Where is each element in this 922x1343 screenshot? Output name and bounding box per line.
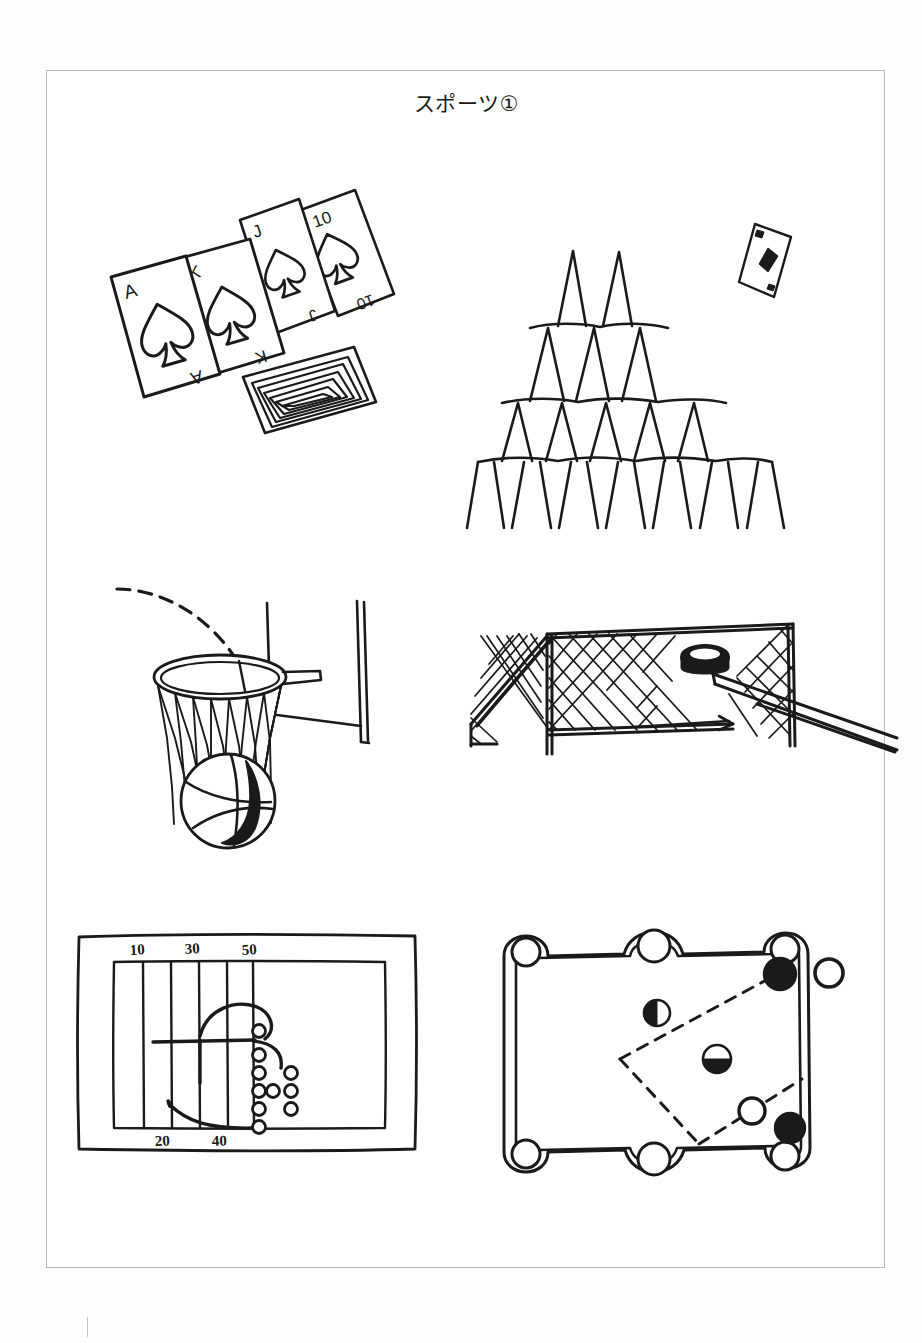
player-marker	[253, 1103, 266, 1116]
pocket-bottom-middle	[638, 1143, 670, 1175]
player-marker	[267, 1085, 280, 1098]
page-title: スポーツ①	[47, 87, 886, 117]
ball-hollow-lower	[739, 1098, 765, 1124]
player-marker	[253, 1085, 266, 1098]
playing-cards-drawing: 10 10 J J K	[102, 176, 402, 436]
hockey-stick	[713, 674, 897, 752]
field-inner-rect	[113, 961, 386, 1129]
card-pyramid	[467, 251, 784, 528]
basketball	[181, 754, 275, 848]
player-marker	[253, 1121, 266, 1134]
goal-net-back-panel	[549, 634, 697, 730]
basketball-hoop-drawing	[107, 516, 417, 846]
hoop-rim	[154, 655, 321, 699]
player-marker	[285, 1067, 298, 1080]
hockey-goal-illustration	[457, 566, 897, 786]
yard-numbers-bottom: 20 40	[155, 1132, 228, 1149]
playing-cards-illustration: 10 10 J J K	[102, 176, 402, 436]
ball-solid	[764, 958, 796, 990]
wall-line	[277, 715, 361, 726]
yard-number-50: 50	[241, 941, 257, 958]
registration-tick-mark	[87, 1317, 88, 1337]
player-marker	[253, 1025, 266, 1038]
pool-table-drawing	[472, 916, 842, 1196]
falling-diamond-card	[739, 224, 791, 297]
yard-number-20: 20	[155, 1132, 171, 1149]
yard-number-10: 10	[129, 941, 145, 958]
pool-table-illustration	[472, 916, 842, 1196]
yard-numbers-top: 10 30 50	[129, 940, 257, 958]
ball-solid-lower	[775, 1113, 805, 1143]
player-marker	[285, 1085, 298, 1098]
page-frame: スポーツ① 10 10 J J	[46, 70, 885, 1268]
house-of-cards-drawing	[472, 216, 802, 466]
hockey-goal-drawing	[457, 566, 897, 786]
player-marker	[253, 1049, 266, 1062]
pocket-bottom-left	[512, 1140, 540, 1168]
basketball-hoop-illustration	[107, 516, 417, 846]
ball-hollow	[815, 959, 843, 987]
pocket-bottom-right	[771, 1142, 799, 1170]
ball-half-center	[703, 1045, 731, 1073]
ball-half-left	[644, 1000, 670, 1026]
football-play-diagram: 10 30 50 20 40	[67, 921, 437, 1171]
pocket-top-middle	[638, 930, 670, 962]
yard-number-40: 40	[212, 1132, 228, 1149]
player-marker	[285, 1103, 298, 1116]
field-boundary	[78, 934, 417, 1151]
yard-number-30: 30	[184, 940, 200, 957]
pocket-top-left	[512, 938, 540, 966]
house-of-cards-illustration	[472, 216, 802, 466]
hockey-puck	[681, 645, 729, 674]
player-marker	[253, 1067, 266, 1080]
football-play-drawing: 10 30 50 20 40	[67, 921, 437, 1171]
worksheet-page: スポーツ① 10 10 J J	[0, 0, 922, 1343]
route-line-hook	[168, 1101, 170, 1106]
